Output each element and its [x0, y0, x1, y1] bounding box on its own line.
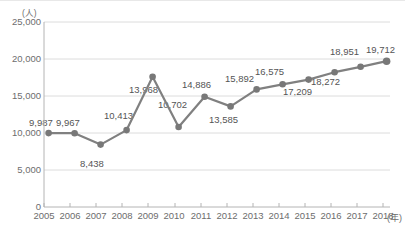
plot-area	[0, 0, 405, 233]
line-chart: (人) 25,000 20,000 15,000 10,000 5,000 0 …	[0, 0, 405, 233]
gridlines	[44, 22, 390, 170]
x-axis-ticks	[44, 203, 383, 207]
axis-lines	[44, 22, 390, 207]
